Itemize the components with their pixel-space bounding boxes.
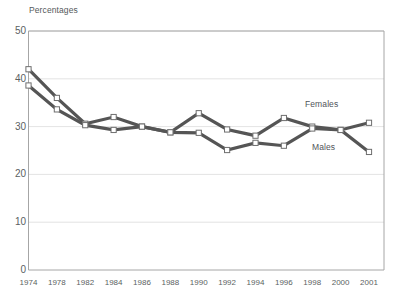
data-point-marker: [168, 130, 173, 135]
data-point-marker: [310, 126, 315, 131]
data-point-marker: [225, 127, 230, 132]
data-point-marker: [366, 120, 371, 125]
data-point-marker: [281, 143, 286, 148]
data-point-marker: [253, 140, 258, 145]
series-label-males: Males: [312, 142, 335, 152]
data-point-marker: [83, 123, 88, 128]
x-axis-tick-label: 2001: [349, 279, 389, 287]
y-axis-tick-label: 30: [0, 122, 26, 132]
y-axis-tick-label: 10: [0, 217, 26, 227]
data-point-marker: [26, 67, 31, 72]
data-point-marker: [111, 127, 116, 132]
data-point-marker: [196, 130, 201, 135]
y-axis-tick-label: 50: [0, 26, 26, 36]
data-point-marker: [26, 83, 31, 88]
y-axis-tick-label: 0: [0, 265, 26, 275]
data-point-marker: [111, 114, 116, 119]
data-point-marker: [54, 107, 59, 112]
chart-container: Percentages 01020304050 1974197819821984…: [0, 0, 393, 300]
data-point-marker: [225, 147, 230, 152]
data-point-marker: [366, 149, 371, 154]
y-axis-tick-label: 40: [0, 74, 26, 84]
data-point-marker: [54, 95, 59, 100]
gridlines: [29, 31, 385, 222]
data-point-marker: [196, 111, 201, 116]
data-point-marker: [338, 127, 343, 132]
data-point-marker: [139, 124, 144, 129]
data-point-marker: [253, 133, 258, 138]
series-label-females: Females: [305, 99, 338, 109]
y-axis-tick-label: 20: [0, 169, 26, 179]
data-point-marker: [281, 115, 286, 120]
